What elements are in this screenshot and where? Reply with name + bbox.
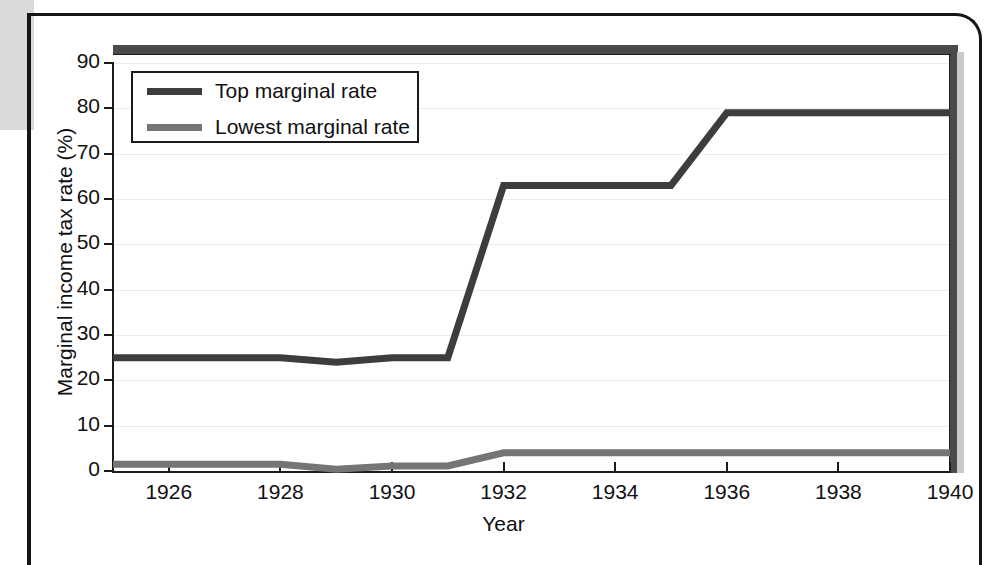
chart-legend: Top marginal rateLowest marginal rate [131,71,419,143]
legend-item-lowest-marginal-rate: Lowest marginal rate [133,109,417,145]
y-axis-title: Marginal income tax rate (%) [53,47,77,477]
series-line-top-marginal-rate [113,113,950,362]
legend-label-top-marginal-rate: Top marginal rate [215,79,377,103]
legend-item-top-marginal-rate: Top marginal rate [133,73,417,109]
legend-swatch-lowest-marginal-rate [147,124,202,131]
x-axis-title: Year [0,512,1007,536]
legend-label-lowest-marginal-rate: Lowest marginal rate [215,115,410,139]
series-line-lowest-marginal-rate [113,453,950,469]
legend-swatch-top-marginal-rate [147,88,202,95]
